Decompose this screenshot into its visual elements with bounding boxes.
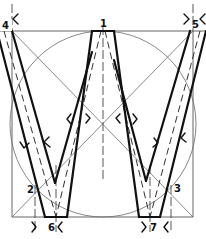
label-point-5: 5	[192, 19, 199, 30]
marker-7-right	[164, 222, 168, 232]
label-point-7: 7	[150, 222, 157, 233]
marker-right-inner	[133, 114, 137, 124]
marker-5-left-arrow	[184, 14, 189, 24]
left-stroke-inner-edge	[12, 31, 55, 183]
marker-left-inner	[67, 114, 71, 124]
label-point-1: 1	[100, 18, 107, 29]
marker-5-right-arrow	[200, 14, 205, 24]
marker-7-left	[142, 222, 146, 232]
label-point-3: 3	[174, 183, 181, 194]
point-labels: 4 1 5 2 3 6 7	[0, 18, 199, 233]
right-stroke-outer-edge	[160, 31, 206, 217]
marker-center-right	[116, 114, 120, 123]
apex-right-edge	[114, 31, 139, 217]
marker-center-left	[86, 114, 90, 123]
label-point-6: 6	[48, 222, 55, 233]
label-point-2: 2	[27, 184, 34, 195]
letter-w-construction-diagram: 4 1 5 2 3 6 7	[0, 0, 206, 239]
marker-4-arrow	[13, 14, 18, 24]
marker-6-right	[58, 222, 62, 232]
label-point-4: 4	[2, 20, 9, 31]
right-stroke-inner-edge	[146, 31, 190, 181]
marker-right-stroke-b	[181, 133, 186, 142]
